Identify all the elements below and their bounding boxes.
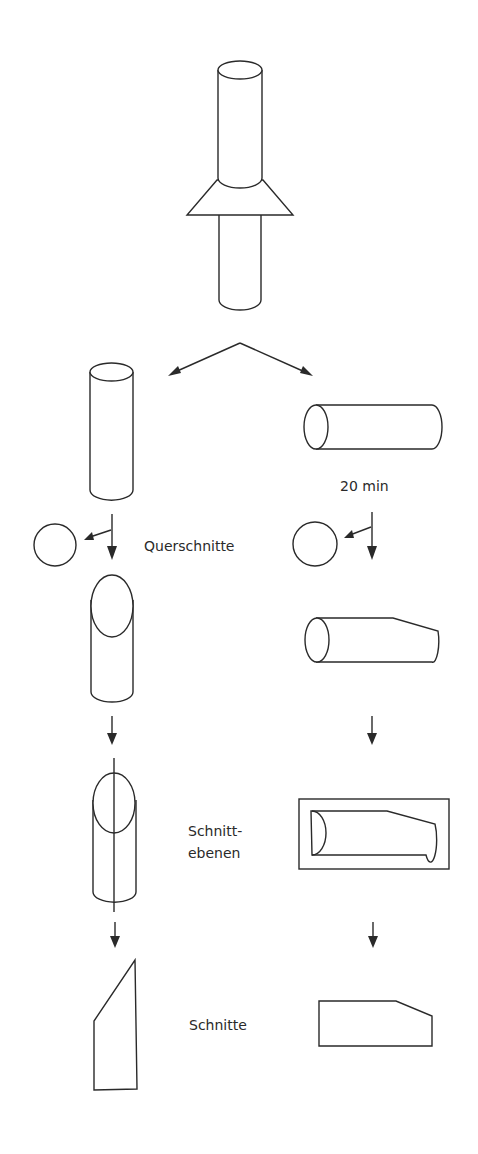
left-cylinder-with-section-plane	[93, 758, 136, 912]
left-section-shape	[94, 960, 137, 1090]
left-cut-cylinder	[91, 575, 133, 702]
right-arrow-3	[368, 922, 378, 948]
right-cross-section-disc	[293, 522, 337, 566]
section-planes-label-line1: Schnitt-	[188, 821, 242, 841]
right-cut-cylinder	[305, 618, 439, 662]
right-section-shape	[319, 1001, 432, 1046]
split-arrows	[168, 343, 313, 376]
right-embedded-block	[299, 799, 449, 869]
left-cross-section-disc	[34, 524, 76, 566]
left-vertical-cylinder	[90, 363, 133, 500]
cross-sections-label: Querschnitte	[144, 536, 234, 556]
source-cylinder-with-plate	[187, 61, 293, 310]
tissue-sectioning-diagram	[0, 0, 478, 1154]
left-cross-section-arrow	[84, 514, 117, 560]
sections-label: Schnitte	[189, 1015, 247, 1035]
section-planes-label-line2: ebenen	[188, 843, 240, 863]
left-arrow-2	[107, 716, 117, 745]
left-arrow-3	[110, 922, 120, 948]
right-arrow-2	[367, 716, 377, 745]
right-cross-section-arrow	[344, 512, 377, 560]
right-horizontal-cylinder	[304, 405, 442, 449]
time-label: 20 min	[340, 476, 389, 496]
